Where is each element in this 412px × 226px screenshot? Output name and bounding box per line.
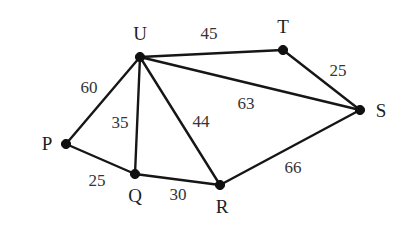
graph-edge-u-t — [140, 50, 283, 57]
edge-weight-u-p: 60 — [81, 79, 98, 96]
graph-vertex-u — [135, 52, 144, 61]
graph-edge-p-q — [66, 144, 135, 174]
edge-weight-u-q: 35 — [112, 114, 129, 131]
graph-vertex-t — [278, 45, 287, 54]
graph-vertex-s — [355, 105, 364, 114]
vertex-label-s: S — [376, 101, 387, 120]
graph-vertex-p — [61, 139, 70, 148]
graph-edge-u-p — [66, 57, 140, 144]
graph-edge-u-q — [135, 57, 140, 174]
vertex-layer — [61, 45, 364, 189]
edge-weight-u-r: 44 — [193, 113, 210, 130]
edge-weight-p-q: 25 — [89, 172, 106, 189]
edge-weight-q-r: 30 — [170, 186, 187, 203]
edge-layer — [66, 50, 360, 185]
edge-weight-u-t: 45 — [201, 25, 218, 42]
edge-weight-u-s: 63 — [238, 95, 255, 112]
vertex-label-t: T — [277, 17, 289, 36]
graph-edge-q-r — [135, 174, 220, 185]
vertex-label-u: U — [133, 24, 147, 43]
vertex-label-p: P — [42, 134, 53, 153]
vertex-label-r: R — [216, 197, 229, 216]
edge-weight-r-s: 66 — [285, 159, 302, 176]
graph-diagram: 452563603544253066UTSPQR — [0, 0, 412, 226]
graph-vertex-r — [215, 180, 224, 189]
vertex-label-q: Q — [128, 186, 142, 205]
edge-weight-t-s: 25 — [330, 62, 347, 79]
graph-vertex-q — [130, 169, 139, 178]
